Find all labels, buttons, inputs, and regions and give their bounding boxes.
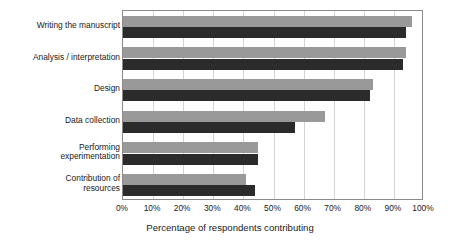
x-tick-label-6: 60% (294, 203, 311, 213)
category-axis-labels: Writing the manuscriptAnalysis / interpr… (0, 10, 126, 200)
category-label-3: Data collection (0, 116, 120, 126)
x-axis-title: Percentage of respondents contributing (0, 222, 460, 233)
x-tick-label-4: 40% (234, 203, 251, 213)
category-label-0: Writing the manuscript (0, 21, 120, 31)
plot-area (122, 10, 423, 200)
x-tick-label-7: 70% (324, 203, 341, 213)
x-tick-label-1: 10% (144, 203, 161, 213)
category-label-1: Analysis / interpretation (0, 53, 120, 63)
gridline (364, 11, 365, 199)
x-tick-label-10: 100% (412, 203, 433, 213)
category-label-5: Contribution ofresources (0, 175, 120, 194)
gridline (183, 11, 184, 199)
bar-chart-figure: Writing the manuscriptAnalysis / interpr… (0, 0, 460, 248)
bar-series-1-1 (123, 47, 406, 58)
bar-series-1-0 (123, 16, 412, 27)
gridline (274, 11, 275, 199)
gridline (153, 11, 154, 199)
gridline (213, 11, 214, 199)
x-tick-label-5: 50% (264, 203, 281, 213)
x-tick-label-9: 90% (385, 203, 402, 213)
bar-series-1-2 (123, 79, 373, 90)
bar-series-1-5 (123, 174, 246, 185)
bar-series-2-5 (123, 185, 255, 196)
x-tick-label-8: 80% (354, 203, 371, 213)
bar-series-2-1 (123, 59, 403, 70)
x-axis-ticks: 0%10%20%30%40%50%60%70%80%90%100% (122, 201, 423, 217)
gridline (334, 11, 335, 199)
gridline (304, 11, 305, 199)
category-label-4: Performingexperimentation (0, 143, 120, 162)
bar-series-2-2 (123, 90, 370, 101)
bar-series-2-0 (123, 27, 406, 38)
bar-series-2-3 (123, 122, 295, 133)
bar-series-1-4 (123, 142, 258, 153)
x-tick-label-3: 30% (204, 203, 221, 213)
x-tick-label-0: 0% (116, 203, 128, 213)
gridline (394, 11, 395, 199)
bar-series-2-4 (123, 154, 258, 165)
x-tick-label-2: 20% (174, 203, 191, 213)
category-label-2: Design (0, 84, 120, 94)
gridline (243, 11, 244, 199)
bar-series-1-3 (123, 111, 325, 122)
